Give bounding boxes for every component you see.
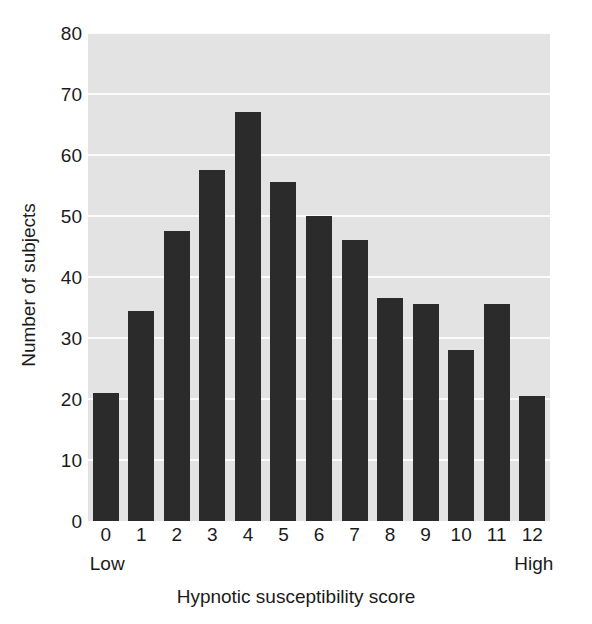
low-endpoint-label: Low	[90, 553, 125, 575]
y-axis-tick-label: 10	[44, 451, 82, 470]
bar	[128, 311, 154, 521]
bar	[413, 304, 439, 521]
high-endpoint-label: High	[514, 553, 553, 575]
x-axis-tick-label: 8	[370, 524, 410, 547]
x-axis-tick-label: 11	[477, 524, 517, 547]
y-axis-tick-label: 60	[44, 146, 82, 165]
y-axis-tick-labels: 01020304050607080	[44, 0, 82, 624]
x-axis-tick-label: 1	[121, 524, 161, 547]
y-axis-tick-label: 40	[44, 268, 82, 287]
y-axis-tick-label: 80	[44, 24, 82, 43]
x-axis-tick-label: 4	[228, 524, 268, 547]
bar	[93, 393, 119, 521]
gridline	[88, 93, 550, 95]
plot-area	[88, 33, 550, 521]
y-axis-title-text: Number of subjects	[18, 203, 40, 367]
gridline	[88, 33, 550, 34]
x-axis-tick-label: 5	[263, 524, 303, 547]
x-axis-tick-label: 10	[441, 524, 481, 547]
bar	[306, 216, 332, 521]
y-axis-tick-label: 30	[44, 329, 82, 348]
bar-chart-figure: Number of subjects 01020304050607080 012…	[0, 0, 592, 624]
y-axis-title: Number of subjects	[14, 70, 44, 500]
x-axis-tick-labels: 0123456789101112	[88, 524, 550, 552]
y-axis-tick-label: 0	[44, 512, 82, 531]
bar	[448, 350, 474, 521]
x-axis-title: Hypnotic susceptibility score	[0, 586, 592, 608]
y-axis-tick-label: 50	[44, 207, 82, 226]
x-axis-tick-label: 2	[157, 524, 197, 547]
bar	[235, 112, 261, 521]
x-axis-tick-label: 0	[86, 524, 126, 547]
y-axis-tick-label: 70	[44, 85, 82, 104]
x-axis-tick-label: 12	[512, 524, 552, 547]
x-axis-tick-label: 7	[335, 524, 375, 547]
axis-endpoint-labels: Low High	[88, 553, 550, 579]
bar	[377, 298, 403, 521]
bar	[199, 170, 225, 521]
x-axis-tick-label: 6	[299, 524, 339, 547]
x-axis-tick-label: 3	[192, 524, 232, 547]
bar	[484, 304, 510, 521]
y-axis-tick-label: 20	[44, 390, 82, 409]
x-axis-tick-label: 9	[406, 524, 446, 547]
bar	[519, 396, 545, 521]
bar	[164, 231, 190, 521]
bar	[342, 240, 368, 521]
bar	[270, 182, 296, 521]
gridline	[88, 154, 550, 156]
